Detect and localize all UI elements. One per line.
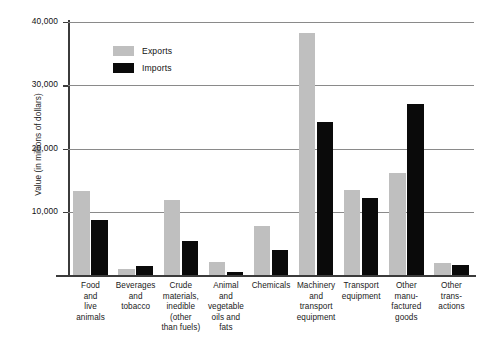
category-label-line: and [68, 292, 113, 303]
legend-item-imports: Imports [113, 61, 172, 75]
category-label-line: inedible [158, 302, 203, 313]
category-label-line: and [203, 292, 248, 303]
category-label-line: goods [384, 313, 429, 324]
bar-imports [91, 220, 108, 275]
category-label-line: materials, [158, 292, 203, 303]
bar-group [73, 22, 108, 275]
category-label: Crudematerials,inedible(otherthan fuels) [158, 281, 203, 334]
legend-swatch-exports-icon [113, 46, 134, 56]
y-tick-label: 20,000 [32, 143, 58, 153]
bar-imports [227, 272, 244, 275]
y-tick-mark [63, 85, 68, 86]
bar-group [344, 22, 379, 275]
bar-exports [209, 262, 226, 275]
bar-exports [434, 263, 451, 275]
bar-imports [272, 250, 289, 275]
category-label-line: oils and [203, 313, 248, 324]
bar-exports [164, 200, 181, 275]
category-label-line: than fuels) [158, 323, 203, 334]
category-label-line: Animal [203, 281, 248, 292]
y-tick-label: 40,000 [32, 16, 58, 26]
bar-imports [317, 122, 334, 275]
bar-exports [118, 269, 135, 275]
bar-imports [362, 198, 379, 275]
bar-exports [389, 173, 406, 275]
category-label-line: Other [429, 281, 474, 292]
category-label-line: Chemicals [248, 281, 293, 292]
category-label-line: Beverages [113, 281, 158, 292]
bar-exports [344, 190, 361, 275]
category-label-line: Food [68, 281, 113, 292]
category-label-line: manu- [384, 292, 429, 303]
y-tick: 20,000 [0, 143, 58, 155]
category-label-line: actions [429, 302, 474, 313]
category-label: Transportequipment [339, 281, 384, 302]
category-label: Chemicals [248, 281, 293, 292]
category-label-line: (other [158, 313, 203, 324]
bar-imports [407, 104, 424, 275]
legend-item-exports: Exports [113, 44, 172, 58]
y-tick-mark [63, 212, 68, 213]
chart-legend: Exports Imports [113, 44, 172, 78]
category-label-line: trans- [429, 292, 474, 303]
legend-label-exports: Exports [142, 46, 172, 56]
category-label-line: equipment [294, 313, 339, 324]
category-label-line: Machinery [294, 281, 339, 292]
category-label: Animalandvegetableoils andfats [203, 281, 248, 334]
category-label-line: tobacco [113, 302, 158, 313]
bar-chart: Value (in millions of dollars) 10,00020,… [0, 0, 482, 344]
bar-imports [136, 266, 153, 275]
legend-label-imports: Imports [142, 63, 172, 73]
category-label-line: factured [384, 302, 429, 313]
category-label-line: animals [68, 313, 113, 324]
category-label-line: and [294, 292, 339, 303]
bar-group [209, 22, 244, 275]
legend-swatch-imports-icon [113, 63, 134, 73]
category-label-line: Other [384, 281, 429, 292]
y-tick: 40,000 [0, 16, 58, 28]
category-label-line: Crude [158, 281, 203, 292]
category-label: Othermanu-facturedgoods [384, 281, 429, 323]
category-label: Othertrans-actions [429, 281, 474, 313]
x-axis-line [56, 275, 476, 277]
bar-exports [299, 33, 316, 275]
category-label-line: live [68, 302, 113, 313]
y-tick-label: 30,000 [32, 79, 58, 89]
bar-exports [254, 226, 271, 275]
category-label-line: transport [294, 302, 339, 313]
bar-group [299, 22, 334, 275]
category-label: Foodandliveanimals [68, 281, 113, 323]
category-label: Beveragesandtobacco [113, 281, 158, 313]
bar-exports [73, 191, 90, 275]
category-label-line: fats [203, 323, 248, 334]
y-tick: 30,000 [0, 79, 58, 91]
y-tick-label: 10,000 [32, 206, 58, 216]
bar-group [389, 22, 424, 275]
bar-imports [182, 241, 199, 275]
bar-group [254, 22, 289, 275]
y-tick-mark [63, 22, 68, 23]
category-label: Machineryandtransportequipment [294, 281, 339, 323]
y-tick: 10,000 [0, 206, 58, 218]
category-label-line: and [113, 292, 158, 303]
category-label-line: Transport [339, 281, 384, 292]
y-tick-mark [63, 149, 68, 150]
category-label-line: vegetable [203, 302, 248, 313]
bar-imports [452, 265, 469, 275]
bar-group [434, 22, 469, 275]
category-label-line: equipment [339, 292, 384, 303]
